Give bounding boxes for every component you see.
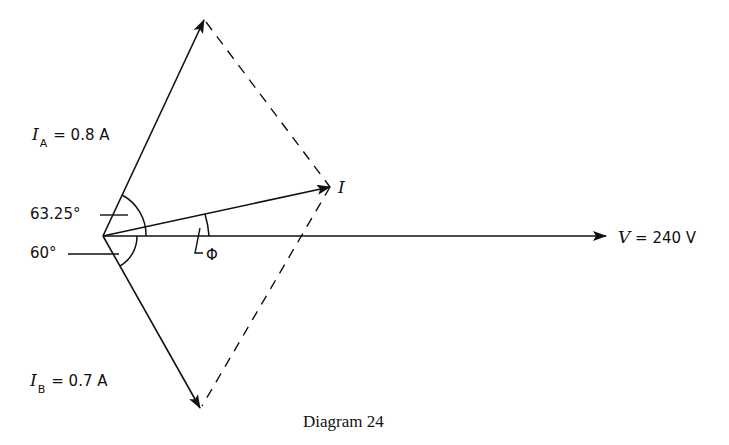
label-resultant-current: I	[338, 177, 345, 197]
symbol-ia: I	[32, 124, 39, 144]
label-phi: Φ	[206, 246, 218, 264]
angle-arc-b	[120, 236, 137, 266]
label-angle-b: 60°	[30, 244, 57, 262]
phasor-diagram: IA= 0.8 A 63.25° 60° Φ I V = 240 V IB= 0…	[0, 0, 729, 445]
symbol-v: V	[618, 227, 630, 247]
resultant-current-phasor	[103, 187, 330, 236]
angle-arc-phi	[205, 214, 209, 236]
value-v: = 240 V	[635, 229, 696, 247]
label-current-b: IB= 0.7 A	[30, 370, 108, 390]
current-b-phasor	[103, 236, 200, 408]
label-angle-a: 63.25°	[30, 205, 80, 223]
value-ib: = 0.7 A	[51, 372, 107, 390]
label-voltage: V = 240 V	[618, 227, 696, 247]
current-a-phasor	[103, 20, 204, 236]
diagram-caption: Diagram 24	[303, 412, 384, 432]
subscript-a: A	[40, 137, 48, 150]
dashed-construction-line-a	[206, 22, 330, 187]
dashed-construction-line-b	[202, 187, 330, 406]
value-ia: = 0.8 A	[53, 126, 109, 144]
symbol-ib: I	[30, 370, 37, 390]
leader-phi	[195, 228, 203, 253]
phasor-drawing	[0, 0, 729, 445]
subscript-b: B	[38, 383, 46, 396]
label-current-a: IA= 0.8 A	[32, 124, 109, 144]
